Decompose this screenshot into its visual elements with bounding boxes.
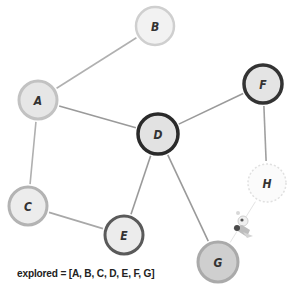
- node-H: H: [248, 164, 286, 202]
- graph-nodes: ABCDEFGH: [9, 7, 286, 282]
- edge-A-B: [57, 38, 137, 88]
- edge-A-C: [30, 122, 36, 184]
- edge-F-H: [264, 106, 266, 161]
- node-E: E: [105, 216, 143, 254]
- node-F: F: [244, 65, 282, 103]
- graph-diagram: ABCDEFGH: [0, 0, 290, 305]
- edge-D-F: [179, 93, 243, 124]
- edge-C-E: [49, 212, 103, 228]
- node-B: B: [136, 7, 174, 45]
- node-label: E: [120, 229, 128, 243]
- node-A: A: [19, 81, 57, 119]
- rocket-explorer-icon: [233, 211, 253, 238]
- node-label: A: [33, 94, 42, 108]
- node-D: D: [138, 114, 178, 154]
- node-C: C: [9, 187, 47, 225]
- edge-D-G: [168, 155, 208, 241]
- explored-list-caption: explored = [A, B, C, D, E, F, G]: [17, 267, 154, 279]
- node-label: C: [24, 200, 32, 214]
- node-label: H: [262, 177, 271, 191]
- edge-A-D: [59, 106, 136, 128]
- node-label: D: [154, 128, 163, 142]
- edge-D-E: [131, 156, 151, 214]
- node-label: B: [151, 20, 159, 34]
- node-G: G: [198, 242, 238, 282]
- node-label: G: [214, 256, 223, 270]
- node-label: F: [259, 78, 267, 92]
